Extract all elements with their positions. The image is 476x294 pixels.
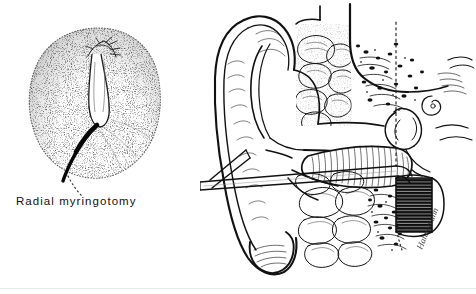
panel-tympanic-membrane: Radial myringotomy — [0, 0, 200, 294]
middle-ear-cavity — [396, 175, 444, 237]
leader-line-radial-myringotomy — [68, 176, 82, 196]
auricle — [215, 16, 304, 274]
medical-illustration-figure: Radial myringotomy — [0, 0, 476, 294]
ear-cross-section-drawing: Hahnemann — [200, 0, 476, 294]
panel-ear-cross-section: Hahnemann Suction tip Serous fluid — [200, 0, 476, 294]
mastoid-air-cells-upper — [295, 24, 355, 135]
petrous-bone-stipple — [356, 43, 424, 112]
tympanic-membrane-drawing — [0, 0, 200, 294]
label-radial-myringotomy: Radial myringotomy — [16, 196, 137, 208]
page-baseline-rule — [0, 288, 476, 289]
